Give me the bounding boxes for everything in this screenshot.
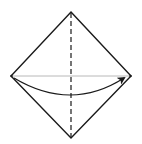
left-corner-dot xyxy=(10,75,12,77)
right-corner-dot xyxy=(129,75,131,77)
origami-diagram xyxy=(0,0,142,144)
fold-arrow-icon xyxy=(14,78,124,95)
